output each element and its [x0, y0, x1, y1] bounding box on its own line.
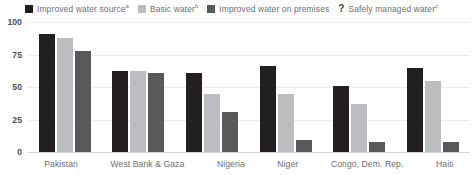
- bar[interactable]: [57, 38, 73, 152]
- bar[interactable]: [278, 94, 294, 153]
- legend-swatch-icon: [207, 5, 215, 13]
- x-axis-label: West Bank & Gaza: [111, 156, 185, 169]
- bar-group: [333, 22, 385, 152]
- legend-swatch-icon: [138, 5, 146, 13]
- gridline: [28, 152, 470, 153]
- bar[interactable]: [39, 34, 55, 152]
- bar-group: [39, 22, 91, 152]
- y-axis-tick-label: 50: [12, 82, 22, 92]
- bar[interactable]: [260, 66, 276, 152]
- legend-item-basic-water[interactable]: Basic waterb: [138, 5, 198, 13]
- bar[interactable]: [333, 86, 349, 152]
- plot-wrapper: 1007550250 PakistanWest Bank & GazaNiger…: [0, 18, 472, 175]
- y-axis-tick-label: 75: [12, 50, 22, 60]
- bar[interactable]: [425, 81, 441, 153]
- legend-item-safely-managed-water[interactable]: ?Safely managed waterc: [338, 4, 438, 14]
- y-axis-tick-label: 100: [7, 17, 22, 27]
- legend-label: Improved water on premises: [219, 5, 329, 13]
- bar[interactable]: [186, 73, 202, 152]
- bar[interactable]: [222, 112, 238, 152]
- bar-group: [407, 22, 459, 152]
- x-axis-label: Nigeria: [217, 156, 245, 169]
- legend-label: Safely managed waterc: [348, 5, 438, 13]
- x-axis-label: Pakistan: [44, 156, 78, 169]
- chart-legend: Improved water sourceaBasic waterbImprov…: [0, 0, 472, 18]
- legend-label: Improved water sourcea: [37, 5, 129, 13]
- legend-footnote-marker: a: [126, 3, 129, 9]
- y-axis-tick-label: 25: [12, 115, 22, 125]
- legend-item-improved-water-source[interactable]: Improved water sourcea: [25, 5, 129, 13]
- bar[interactable]: [148, 73, 164, 152]
- legend-swatch-icon: [25, 5, 33, 13]
- bar-group: [260, 22, 312, 152]
- x-axis-label: Haiti: [436, 156, 454, 169]
- bar[interactable]: [443, 142, 459, 152]
- bar[interactable]: [130, 71, 146, 152]
- bar[interactable]: [296, 140, 312, 152]
- water-access-bar-chart: Improved water sourceaBasic waterbImprov…: [0, 0, 472, 175]
- y-axis: 1007550250: [0, 18, 26, 152]
- question-mark-icon: ?: [338, 4, 344, 14]
- legend-item-improved-water-on-premises[interactable]: Improved water on premises: [207, 5, 329, 13]
- bar-group: [112, 22, 164, 152]
- x-axis-label: Congo, Dem. Rep.: [331, 156, 404, 169]
- plot-area: [28, 22, 470, 152]
- x-axis-labels: PakistanWest Bank & GazaNigeriaNigerCong…: [28, 156, 470, 174]
- bar[interactable]: [75, 51, 91, 152]
- bar[interactable]: [204, 94, 220, 153]
- x-axis-label: Niger: [277, 156, 298, 169]
- bar[interactable]: [407, 68, 423, 153]
- bar[interactable]: [369, 142, 385, 152]
- y-axis-tick-label: 0: [17, 147, 22, 157]
- legend-footnote-marker: c: [435, 3, 438, 9]
- bar-groups: [28, 22, 470, 152]
- legend-footnote-marker: b: [195, 3, 198, 9]
- bar-group: [186, 22, 238, 152]
- legend-label: Basic waterb: [150, 5, 198, 13]
- bar[interactable]: [112, 71, 128, 152]
- bar[interactable]: [351, 104, 367, 152]
